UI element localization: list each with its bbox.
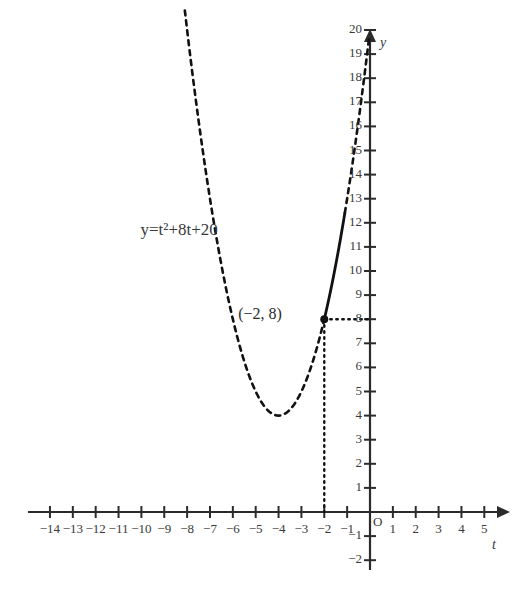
- y-axis-name: y: [380, 35, 386, 51]
- point-coordinate-label: (−2, 8): [238, 305, 282, 323]
- y-tick-label: 6: [328, 358, 362, 374]
- y-tick-label: 15: [328, 142, 362, 158]
- x-tick-label: −13: [62, 521, 84, 537]
- x-tick-label: 5: [473, 521, 495, 537]
- equation-label: y=t²+8t+20: [141, 220, 218, 240]
- x-tick-label: −12: [85, 521, 107, 537]
- x-tick-label: 1: [382, 521, 404, 537]
- origin-label: O: [373, 514, 382, 530]
- x-tick-label: −8: [176, 521, 198, 537]
- x-tick-label: −9: [153, 521, 175, 537]
- x-tick-label: 2: [405, 521, 427, 537]
- y-tick-label: 1: [328, 479, 362, 495]
- y-tick-label: 13: [328, 190, 362, 206]
- y-tick-label: 14: [328, 166, 362, 182]
- y-tick-label: 9: [328, 286, 362, 302]
- y-tick-label: 17: [328, 93, 362, 109]
- graph-figure: −14−13−12−11−10−9−8−7−6−5−4−3−2−112345 −…: [0, 0, 524, 609]
- y-tick-label: 8: [328, 310, 362, 326]
- y-tick-label: 3: [328, 431, 362, 447]
- y-tick-label: 4: [328, 407, 362, 423]
- y-tick-label: 18: [328, 69, 362, 85]
- y-axis: [364, 29, 376, 570]
- x-tick-label: 4: [450, 521, 472, 537]
- y-tick-label: 12: [328, 214, 362, 230]
- x-tick-label: −4: [268, 521, 290, 537]
- x-tick-label: −6: [222, 521, 244, 537]
- y-tick-label: 20: [328, 21, 362, 37]
- x-tick-label: −10: [130, 521, 152, 537]
- x-tick-label: −7: [199, 521, 221, 537]
- y-tick-label: −1: [328, 527, 362, 543]
- y-tick-label: 10: [328, 262, 362, 278]
- x-axis: [28, 506, 510, 518]
- x-tick-label: −14: [39, 521, 61, 537]
- y-tick-label: 2: [328, 455, 362, 471]
- y-tick-label: −2: [328, 551, 362, 567]
- x-tick-label: −11: [108, 521, 130, 537]
- y-tick-label: 7: [328, 334, 362, 350]
- y-tick-label: 16: [328, 117, 362, 133]
- y-tick-label: 5: [328, 383, 362, 399]
- x-axis-name: t: [492, 537, 496, 553]
- x-tick-label: −3: [290, 521, 312, 537]
- y-tick-label: 19: [328, 45, 362, 61]
- x-tick-label: 3: [428, 521, 450, 537]
- x-tick-label: −5: [245, 521, 267, 537]
- y-tick-label: 11: [328, 238, 362, 254]
